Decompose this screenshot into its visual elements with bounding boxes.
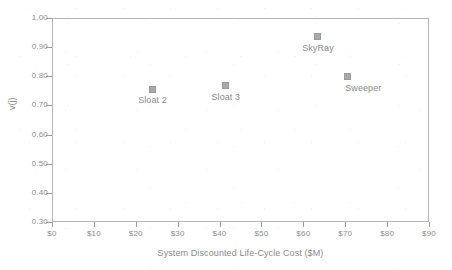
x-axis-tick-label: $50 [241, 230, 281, 238]
data-point-marker [314, 33, 321, 40]
y-axis-tick-label: 0.50 [16, 160, 48, 168]
data-point-label: Sloat 3 [196, 92, 256, 102]
x-axis-tick [387, 222, 388, 227]
x-axis-title: System Discounted Life-Cycle Cost ($M) [52, 248, 429, 258]
x-axis-tick-label: $20 [116, 230, 156, 238]
y-axis-tick-label: 0.40 [16, 189, 48, 197]
y-axis-tick-label: 1.00 [16, 14, 48, 22]
y-axis-tick-label: 0.30 [16, 218, 48, 226]
x-axis-tick [220, 222, 221, 227]
x-axis-tick-label: $60 [283, 230, 323, 238]
data-point-marker [222, 82, 229, 89]
data-point-label: Sloat 2 [123, 95, 183, 105]
y-axis-tick-label: 0.60 [16, 131, 48, 139]
x-axis-tick [94, 222, 95, 227]
data-point-label: Sweeper [333, 83, 393, 93]
x-axis-tick [52, 222, 53, 227]
y-axis-tick-label: 0.70 [16, 101, 48, 109]
x-axis-tick [136, 222, 137, 227]
x-axis-tick-label: $40 [200, 230, 240, 238]
scatter-chart: 0.300.400.500.600.700.800.901.00 $0$10$2… [0, 0, 452, 270]
x-axis-tick-label: $80 [367, 230, 407, 238]
x-axis-tick [261, 222, 262, 227]
data-point-marker [344, 73, 351, 80]
y-axis-tick-label: 0.90 [16, 43, 48, 51]
y-axis-title: v(j) [8, 98, 17, 111]
x-axis-tick [303, 222, 304, 227]
x-axis-tick-label: $70 [325, 230, 365, 238]
y-axis-tick-label: 0.80 [16, 72, 48, 80]
x-axis-tick-label: $30 [158, 230, 198, 238]
data-point-label: SkyRay [288, 43, 348, 53]
x-axis-tick [345, 222, 346, 227]
x-axis-tick [178, 222, 179, 227]
x-axis-tick [429, 222, 430, 227]
x-axis-tick-label: $10 [74, 230, 114, 238]
plot-area [52, 18, 429, 222]
x-axis-tick-label: $90 [409, 230, 449, 238]
x-axis-tick-label: $0 [32, 230, 72, 238]
data-point-marker [149, 86, 156, 93]
